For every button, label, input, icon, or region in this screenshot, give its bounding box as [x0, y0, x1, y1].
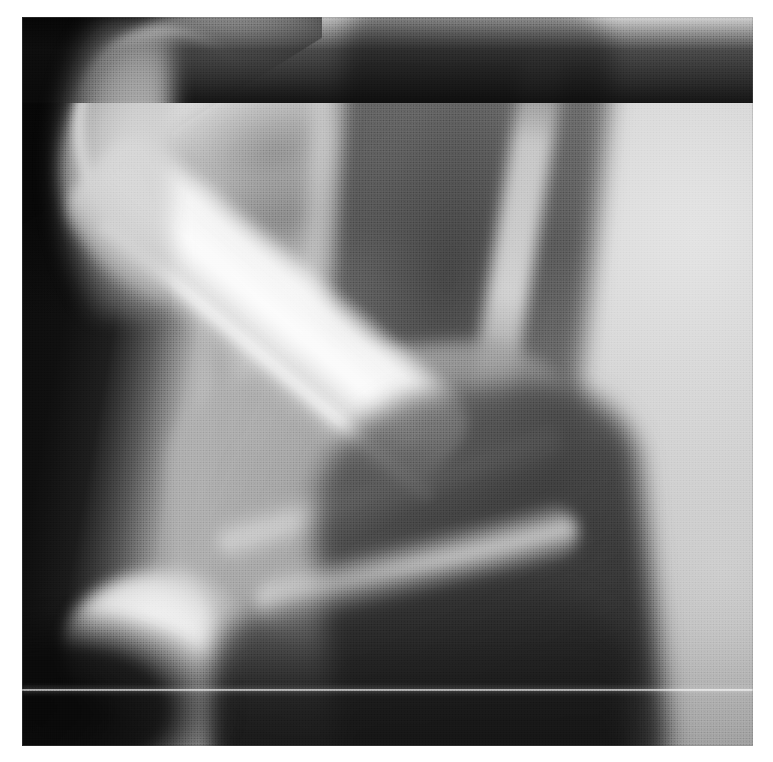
page-canvas: [0, 0, 773, 762]
film-vignette: [22, 17, 753, 746]
radiograph-plate: [22, 17, 753, 746]
